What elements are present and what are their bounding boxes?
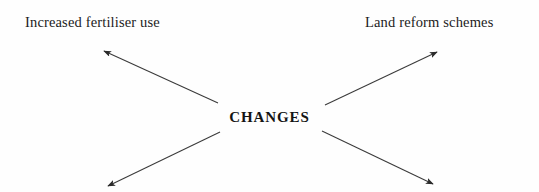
- node-label-top-left: Increased fertiliser use: [25, 14, 160, 31]
- arrow-down-right: [322, 131, 433, 184]
- hub-label-changes: CHANGES: [0, 109, 539, 126]
- arrow-down-left: [108, 132, 220, 186]
- arrow-up-left: [104, 51, 218, 103]
- diagram-canvas: Increased fertiliser use Land reform sch…: [0, 0, 539, 192]
- arrow-up-right: [325, 52, 437, 105]
- node-label-top-right: Land reform schemes: [365, 14, 493, 31]
